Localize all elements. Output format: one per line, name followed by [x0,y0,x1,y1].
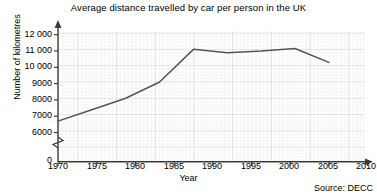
chart-container: Average distance travelled by car per pe… [0,0,377,194]
plot-area [0,0,377,194]
